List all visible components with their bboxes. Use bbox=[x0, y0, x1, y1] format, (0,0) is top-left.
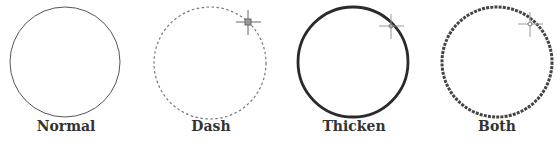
label-both: Both bbox=[427, 118, 557, 134]
panel-dash bbox=[154, 7, 266, 119]
panel-normal bbox=[10, 7, 120, 117]
label-normal: Normal bbox=[0, 118, 136, 134]
crosshair-cursor-icon bbox=[518, 12, 543, 37]
circle-style-comparison-figure: Normal Dash Thicken Both bbox=[0, 0, 557, 143]
normal-circle bbox=[10, 7, 120, 117]
panel-thicken bbox=[298, 7, 408, 117]
panel-both bbox=[442, 7, 552, 117]
label-dash: Dash bbox=[141, 118, 281, 134]
crosshair-cursor-icon bbox=[236, 10, 261, 35]
label-thicken: Thicken bbox=[284, 118, 424, 134]
